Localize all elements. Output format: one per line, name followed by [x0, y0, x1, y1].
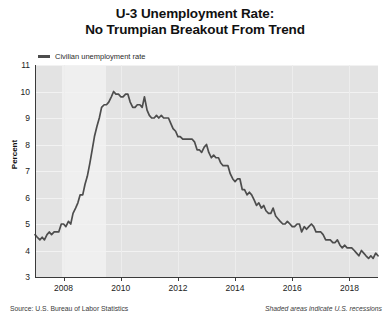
recession-note: Shaded areas indicate U.S. recessions — [265, 305, 382, 312]
y-tick-label: 3 — [4, 272, 30, 282]
legend-line-swatch — [38, 55, 50, 58]
x-tick-mark — [121, 277, 122, 281]
x-tick-label: 2010 — [111, 283, 130, 293]
title-line-2: No Trumpian Breakout From Trend — [0, 22, 390, 38]
chart-title: U-3 Unemployment Rate: No Trumpian Break… — [0, 6, 390, 38]
y-tick-label: 10 — [4, 87, 30, 97]
title-line-1: U-3 Unemployment Rate: — [0, 6, 390, 22]
x-tick-mark — [178, 277, 179, 281]
legend-label: Civilian unemployment rate — [55, 52, 145, 61]
x-tick-label: 2018 — [340, 283, 359, 293]
x-tick-mark — [349, 277, 350, 281]
x-tick-label: 2014 — [226, 283, 245, 293]
x-tick-mark — [235, 277, 236, 281]
x-axis-line — [35, 277, 378, 278]
y-tick-label: 8 — [4, 140, 30, 150]
plot-area — [35, 65, 378, 277]
x-tick-label: 2008 — [54, 283, 73, 293]
y-tick-label: 11 — [4, 60, 30, 70]
x-tick-label: 2012 — [168, 283, 187, 293]
series-line-civilian-unemployment-rate — [35, 65, 378, 277]
y-tick-label: 5 — [4, 219, 30, 229]
chart-legend: Civilian unemployment rate — [38, 52, 145, 61]
y-tick-label: 7 — [4, 166, 30, 176]
y-tick-label: 6 — [4, 193, 30, 203]
x-tick-mark — [64, 277, 65, 281]
y-tick-label: 4 — [4, 246, 30, 256]
chart-container: U-3 Unemployment Rate: No Trumpian Break… — [0, 0, 390, 325]
source-note: Source: U.S. Bureau of Labor Statistics — [10, 305, 128, 312]
x-tick-label: 2016 — [283, 283, 302, 293]
x-tick-mark — [292, 277, 293, 281]
y-tick-label: 9 — [4, 113, 30, 123]
y-axis-line — [35, 65, 36, 277]
